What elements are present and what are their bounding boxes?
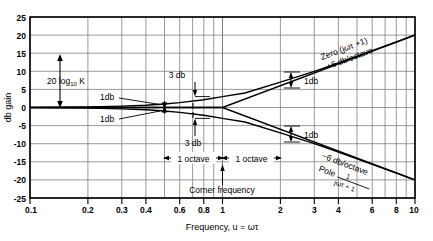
bode-magnitude-figure: 25 20 15 10 5 0 -5 -10 -15 -20 -25 0.1 0… (0, 0, 433, 241)
gain-constant-label: 20 log10 K (47, 76, 85, 87)
x-tick: 0.3 (116, 205, 128, 215)
y-tick: 15 (17, 49, 27, 59)
y-axis-label: db gain (3, 93, 13, 123)
y-tick: -5 (18, 121, 26, 131)
y-tick: -20 (14, 175, 27, 185)
x-tick: 0.6 (174, 205, 186, 215)
octave-label: 1 octave (177, 154, 209, 164)
x-tick: 3 (312, 205, 317, 215)
y-tick: 20 (17, 31, 27, 41)
error-3db-label: 3 db (185, 138, 202, 148)
x-tick: 8 (394, 205, 399, 215)
y-tick: -10 (14, 139, 27, 149)
figure-background (0, 0, 433, 241)
x-tick: 0.1 (25, 205, 37, 215)
y-tick: 5 (21, 85, 26, 95)
error-1db-label: 1db (100, 114, 114, 124)
x-tick: 0.4 (140, 205, 152, 215)
error-1db-label: 1db (304, 130, 318, 140)
x-tick: 1 (220, 205, 225, 215)
x-tick: 10 (409, 205, 419, 215)
x-tick: 0.2 (82, 205, 94, 215)
chart-svg: 25 20 15 10 5 0 -5 -10 -15 -20 -25 0.1 0… (0, 0, 433, 241)
error-1db-label: 1db (100, 92, 114, 102)
x-tick: 4 (336, 205, 341, 215)
octave-left-annotation: 1 octave (163, 152, 224, 164)
y-tick: -15 (14, 157, 27, 167)
error-1db-label: 1db (304, 76, 318, 86)
octave-right-annotation: 1 octave (221, 152, 282, 164)
x-tick: 2 (278, 205, 283, 215)
x-tick: 6 (370, 205, 375, 215)
y-tick: 10 (17, 67, 27, 77)
corner-frequency-label: Corner frequency (189, 185, 255, 195)
x-axis-label: Frequency, u = ωτ (186, 222, 259, 232)
y-tick: -25 (14, 194, 27, 204)
x-tick: 0.8 (198, 205, 210, 215)
octave-label: 1 octave (235, 154, 267, 164)
y-tick: 0 (21, 103, 26, 113)
y-tick: 25 (17, 13, 27, 23)
error-3db-label: 3 db (169, 70, 186, 80)
